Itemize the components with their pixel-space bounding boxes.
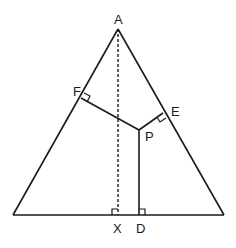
side-ac	[118, 29, 224, 215]
label-d: D	[136, 221, 145, 236]
triangle-diagram: A F E P X D	[0, 0, 236, 248]
label-a: A	[114, 12, 123, 27]
side-ab	[13, 29, 118, 215]
label-f: F	[73, 84, 81, 99]
right-angle-e	[157, 117, 166, 122]
right-angle-d	[139, 209, 145, 215]
right-angle-x	[112, 209, 118, 215]
segment-pf	[81, 98, 139, 130]
label-e: E	[171, 104, 180, 119]
label-p: P	[145, 129, 154, 144]
label-x: X	[113, 221, 122, 236]
